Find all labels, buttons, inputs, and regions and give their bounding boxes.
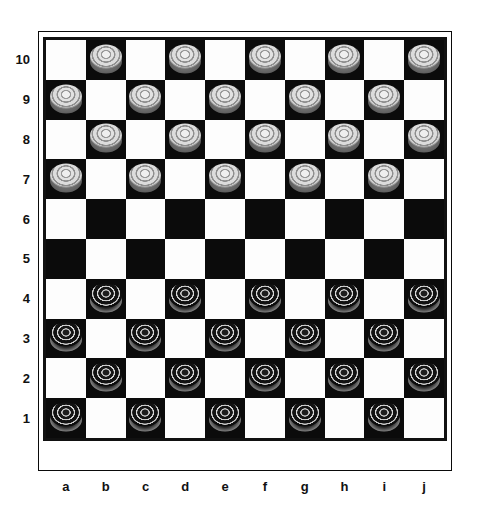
board-square-a1[interactable] [46, 398, 86, 438]
black-piece-d2[interactable] [169, 363, 201, 393]
board-square-h1[interactable] [325, 398, 365, 438]
board-square-g8[interactable] [285, 120, 325, 160]
board-square-j6[interactable] [404, 199, 444, 239]
white-piece-g7[interactable] [289, 164, 321, 194]
board-square-c6[interactable] [126, 199, 166, 239]
board-square-j10[interactable] [404, 40, 444, 80]
board-square-f7[interactable] [245, 159, 285, 199]
board-square-i3[interactable] [364, 319, 404, 359]
board-square-b8[interactable] [86, 120, 126, 160]
board-square-a10[interactable] [46, 40, 86, 80]
board-square-a8[interactable] [46, 120, 86, 160]
black-piece-c3[interactable] [129, 323, 161, 353]
board-square-b3[interactable] [86, 319, 126, 359]
board-square-f3[interactable] [245, 319, 285, 359]
board-square-j4[interactable] [404, 279, 444, 319]
board-square-f1[interactable] [245, 398, 285, 438]
white-piece-d10[interactable] [169, 44, 201, 74]
board-square-d3[interactable] [165, 319, 205, 359]
board-square-g1[interactable] [285, 398, 325, 438]
board-square-i10[interactable] [364, 40, 404, 80]
board-square-f4[interactable] [245, 279, 285, 319]
board-square-a5[interactable] [46, 239, 86, 279]
board-square-h4[interactable] [325, 279, 365, 319]
board-square-d1[interactable] [165, 398, 205, 438]
board-square-i2[interactable] [364, 358, 404, 398]
white-piece-a7[interactable] [50, 164, 82, 194]
black-piece-f2[interactable] [249, 363, 281, 393]
white-piece-c9[interactable] [129, 84, 161, 114]
white-piece-i9[interactable] [368, 84, 400, 114]
black-piece-h2[interactable] [328, 363, 360, 393]
board-square-e2[interactable] [205, 358, 245, 398]
board-square-h8[interactable] [325, 120, 365, 160]
black-piece-f4[interactable] [249, 283, 281, 313]
board-square-h5[interactable] [325, 239, 365, 279]
board-square-b4[interactable] [86, 279, 126, 319]
board-square-j3[interactable] [404, 319, 444, 359]
black-piece-e1[interactable] [209, 402, 241, 432]
white-piece-f10[interactable] [249, 44, 281, 74]
board-square-g7[interactable] [285, 159, 325, 199]
white-piece-h10[interactable] [328, 44, 360, 74]
board-square-c9[interactable] [126, 80, 166, 120]
board-square-c8[interactable] [126, 120, 166, 160]
board-square-b5[interactable] [86, 239, 126, 279]
board-square-j9[interactable] [404, 80, 444, 120]
board-square-e8[interactable] [205, 120, 245, 160]
board-square-g10[interactable] [285, 40, 325, 80]
board-square-j2[interactable] [404, 358, 444, 398]
board-square-i5[interactable] [364, 239, 404, 279]
white-piece-e9[interactable] [209, 84, 241, 114]
board-square-h10[interactable] [325, 40, 365, 80]
white-piece-g9[interactable] [289, 84, 321, 114]
board-square-b1[interactable] [86, 398, 126, 438]
board-square-a6[interactable] [46, 199, 86, 239]
board-square-e7[interactable] [205, 159, 245, 199]
board-square-i1[interactable] [364, 398, 404, 438]
board-square-h2[interactable] [325, 358, 365, 398]
board-square-e6[interactable] [205, 199, 245, 239]
board-square-c1[interactable] [126, 398, 166, 438]
board-square-j1[interactable] [404, 398, 444, 438]
board-square-e3[interactable] [205, 319, 245, 359]
board-square-b9[interactable] [86, 80, 126, 120]
white-piece-j10[interactable] [408, 44, 440, 74]
black-piece-i1[interactable] [368, 402, 400, 432]
white-piece-e7[interactable] [209, 164, 241, 194]
board-square-d4[interactable] [165, 279, 205, 319]
black-piece-a1[interactable] [50, 402, 82, 432]
board-square-g4[interactable] [285, 279, 325, 319]
board-square-f2[interactable] [245, 358, 285, 398]
board-square-i4[interactable] [364, 279, 404, 319]
white-piece-a9[interactable] [50, 84, 82, 114]
board-square-j7[interactable] [404, 159, 444, 199]
board-square-c3[interactable] [126, 319, 166, 359]
board-square-h9[interactable] [325, 80, 365, 120]
black-piece-g3[interactable] [289, 323, 321, 353]
board-square-d5[interactable] [165, 239, 205, 279]
board-square-a2[interactable] [46, 358, 86, 398]
board-square-f9[interactable] [245, 80, 285, 120]
board-square-f8[interactable] [245, 120, 285, 160]
board-square-h6[interactable] [325, 199, 365, 239]
white-piece-h8[interactable] [328, 124, 360, 154]
black-piece-c1[interactable] [129, 402, 161, 432]
board-square-h3[interactable] [325, 319, 365, 359]
board-square-i6[interactable] [364, 199, 404, 239]
board-square-f10[interactable] [245, 40, 285, 80]
board-square-a4[interactable] [46, 279, 86, 319]
board-square-e4[interactable] [205, 279, 245, 319]
white-piece-j8[interactable] [408, 124, 440, 154]
board-square-d6[interactable] [165, 199, 205, 239]
board-square-d10[interactable] [165, 40, 205, 80]
board-square-c4[interactable] [126, 279, 166, 319]
board-square-c5[interactable] [126, 239, 166, 279]
black-piece-b4[interactable] [90, 283, 122, 313]
black-piece-d4[interactable] [169, 283, 201, 313]
board-square-c10[interactable] [126, 40, 166, 80]
black-piece-e3[interactable] [209, 323, 241, 353]
board-square-c7[interactable] [126, 159, 166, 199]
board-square-e10[interactable] [205, 40, 245, 80]
board-square-b2[interactable] [86, 358, 126, 398]
